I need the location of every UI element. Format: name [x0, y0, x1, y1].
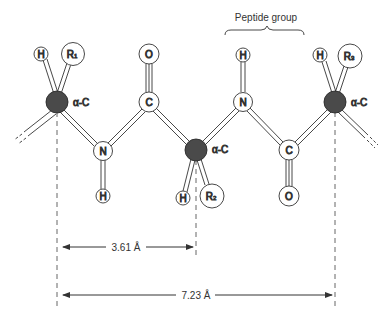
bond-alpha-c1-n1	[60, 109, 97, 146]
atom-o-1-label: O	[145, 49, 153, 60]
atom-n-2-label: N	[239, 97, 246, 108]
bond-alpha-c2-n2	[202, 108, 239, 145]
bond-alpha-c1-h	[43, 59, 58, 94]
bond-alpha-c3-h	[322, 61, 336, 93]
bond-n2-c2	[247, 108, 283, 145]
dimension-short: 3.61 Å	[63, 241, 193, 253]
bond-alpha-c3-r3	[335, 66, 348, 94]
bond-n1-h	[101, 159, 105, 189]
atom-h-alpha-2-label: H	[179, 193, 186, 204]
polypeptide-diagram: Peptide group	[0, 0, 390, 318]
bond-right-trailing	[338, 109, 378, 148]
alpha-c-1-label: α-C	[73, 97, 89, 108]
dimension-long-label: 7.23 Å	[182, 289, 211, 301]
atom-n-1-label: N	[99, 146, 106, 157]
bond-alpha-c1-r1	[57, 63, 71, 94]
atom-h-alpha-1-label: H	[37, 49, 44, 60]
atom-c-2-label: C	[285, 145, 292, 156]
dimension-long: 7.23 Å	[63, 289, 332, 301]
dimension-short-label: 3.61 Å	[112, 241, 141, 253]
bond-n2-h	[241, 62, 245, 92]
bond-c1-alpha-c2	[153, 108, 190, 145]
atom-alpha-c-1	[46, 91, 68, 113]
atom-h-n-2-label: H	[239, 50, 246, 61]
bond-alpha-c2-r2	[197, 159, 209, 185]
bond-c2-alpha-c3	[295, 109, 331, 145]
bond-c1-o1	[146, 64, 152, 92]
atom-o-2-label: O	[285, 191, 293, 202]
bond-left-trailing	[14, 110, 56, 144]
atom-h-alpha-3-label: H	[316, 50, 323, 61]
atom-h-n-1-label: H	[99, 191, 106, 202]
alpha-c-2-label: α-C	[212, 144, 228, 155]
atom-c-1-label: C	[145, 97, 152, 108]
peptide-group-label: Peptide group	[235, 12, 298, 23]
bond-c2-o2	[286, 160, 292, 186]
atom-alpha-c-2	[185, 139, 207, 161]
peptide-group-annotation: Peptide group	[225, 12, 304, 35]
peptide-group-brace	[225, 26, 304, 35]
atom-alpha-c-3	[324, 91, 346, 113]
bond-alpha-c2-h	[183, 159, 195, 192]
bond-n1-c1	[108, 109, 145, 146]
alpha-c-3-label: α-C	[351, 97, 367, 108]
